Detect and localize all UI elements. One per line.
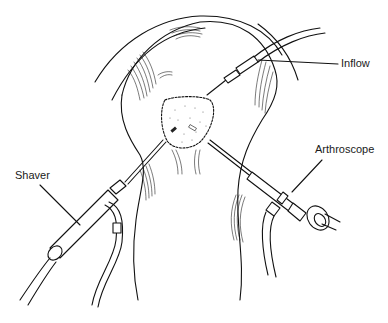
shaver-label: Shaver <box>15 170 50 181</box>
knee-illustration <box>0 0 388 323</box>
inflow-label: Inflow <box>341 58 370 69</box>
arthroscope-label: Arthroscope <box>315 144 374 155</box>
arthroscopy-diagram: Inflow Shaver Arthroscope <box>0 0 388 323</box>
